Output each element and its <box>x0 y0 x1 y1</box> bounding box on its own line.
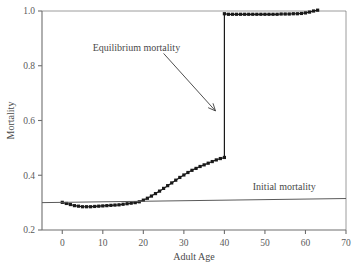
x-tick-label-50: 50 <box>260 238 270 248</box>
data-point-marker <box>190 169 193 172</box>
data-point-marker <box>251 13 254 16</box>
data-point-marker <box>239 13 242 16</box>
data-point-marker <box>263 13 266 16</box>
data-point-marker <box>166 184 169 187</box>
data-point-marker <box>316 9 319 12</box>
data-point-marker <box>186 171 189 174</box>
data-point-marker <box>170 181 173 184</box>
data-point-marker <box>292 12 295 15</box>
data-point-marker <box>105 204 108 207</box>
y-tick-label-0.6: 0.6 <box>23 116 35 126</box>
data-point-marker <box>198 165 201 168</box>
data-point-marker <box>308 10 311 13</box>
x-tick-label-10: 10 <box>98 238 108 248</box>
x-tick-label-0: 0 <box>60 238 65 248</box>
data-point-marker <box>146 197 149 200</box>
data-point-marker <box>73 204 76 207</box>
data-point-marker <box>182 173 185 176</box>
data-point-marker <box>312 9 315 12</box>
data-point-marker <box>117 203 120 206</box>
data-point-marker <box>215 158 218 161</box>
chart-figure: 0.20.40.60.81.0010203040506070Adult AgeM… <box>0 0 360 266</box>
y-tick-label-0.4: 0.4 <box>23 171 35 181</box>
data-point-marker <box>259 13 262 16</box>
data-point-marker <box>223 12 226 15</box>
data-point-marker <box>77 205 80 208</box>
data-point-marker <box>81 205 84 208</box>
data-point-marker <box>194 167 197 170</box>
data-point-marker <box>158 190 161 193</box>
data-point-marker <box>174 179 177 182</box>
data-point-marker <box>101 204 104 207</box>
x-tick-label-20: 20 <box>139 238 149 248</box>
x-axis-title: Adult Age <box>173 251 215 262</box>
data-point-marker <box>271 13 274 16</box>
y-tick-label-0.8: 0.8 <box>23 61 35 71</box>
data-point-marker <box>130 202 133 205</box>
data-point-marker <box>235 13 238 16</box>
x-tick-label-60: 60 <box>301 238 311 248</box>
data-point-marker <box>97 205 100 208</box>
data-point-marker <box>121 203 124 206</box>
data-point-marker <box>223 156 226 159</box>
data-point-marker <box>150 194 153 197</box>
data-point-marker <box>275 13 278 16</box>
data-point-marker <box>162 187 165 190</box>
data-point-marker <box>219 157 222 160</box>
annotation-arrow-line-equilibrium-mortality <box>164 53 216 110</box>
data-point-marker <box>207 162 210 165</box>
data-point-marker <box>300 12 303 15</box>
data-point-marker <box>296 12 299 15</box>
data-point-marker <box>267 13 270 16</box>
data-point-marker <box>280 12 283 15</box>
data-point-marker <box>211 160 214 163</box>
data-point-marker <box>154 192 157 195</box>
y-axis-title: Mortality <box>5 102 16 140</box>
y-tick-label-0.2: 0.2 <box>23 225 35 235</box>
data-point-marker <box>284 12 287 15</box>
data-point-marker <box>89 205 92 208</box>
data-point-marker <box>304 11 307 14</box>
data-point-marker <box>85 205 88 208</box>
series-line-mortality <box>62 10 317 207</box>
x-tick-label-30: 30 <box>179 238 189 248</box>
data-point-marker <box>113 203 116 206</box>
annotation-label-equilibrium-mortality: Equilibrium mortality <box>93 42 180 53</box>
x-tick-label-40: 40 <box>220 238 230 248</box>
data-point-marker <box>203 163 206 166</box>
data-point-marker <box>227 13 230 16</box>
x-tick-label-70: 70 <box>341 238 351 248</box>
data-point-marker <box>109 204 112 207</box>
y-tick-label-1.0: 1.0 <box>23 6 35 16</box>
data-point-marker <box>178 176 181 179</box>
annotation-label-initial-mortality: Initial mortality <box>253 181 316 192</box>
mortality-vs-adult-age-chart: 0.20.40.60.81.0010203040506070Adult AgeM… <box>0 0 360 266</box>
data-point-marker <box>288 12 291 15</box>
data-point-marker <box>93 205 96 208</box>
series-markers-mortality <box>61 9 320 209</box>
data-point-marker <box>231 13 234 16</box>
data-point-marker <box>69 203 72 206</box>
data-point-marker <box>247 13 250 16</box>
data-point-marker <box>243 13 246 16</box>
data-point-marker <box>126 202 129 205</box>
data-point-marker <box>255 13 258 16</box>
series-line-initial-mortality <box>42 199 346 203</box>
